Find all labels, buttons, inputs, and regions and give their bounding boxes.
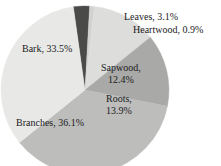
slice-label-roots-line1: Roots, xyxy=(106,93,132,105)
slice-label-sapwood-line2: 12.4% xyxy=(101,74,141,86)
slice-label-sapwood-line1: Sapwood, xyxy=(101,62,141,74)
slice-label-bark: Bark, 33.5% xyxy=(22,43,72,55)
slice-label-heartwood: Heartwood, 0.9% xyxy=(133,24,203,36)
slice-label-roots-line2: 13.9% xyxy=(106,105,132,117)
slice-label-sapwood: Sapwood, 12.4% xyxy=(101,62,141,85)
slice-label-roots: Roots, 13.9% xyxy=(106,93,132,116)
slice-label-branches: Branches, 36.1% xyxy=(16,117,84,129)
pie-chart-figure: of tree biomass Leaves, 3.1% Heartwood, … xyxy=(0,0,221,166)
slice-label-leaves: Leaves, 3.1% xyxy=(124,11,178,23)
